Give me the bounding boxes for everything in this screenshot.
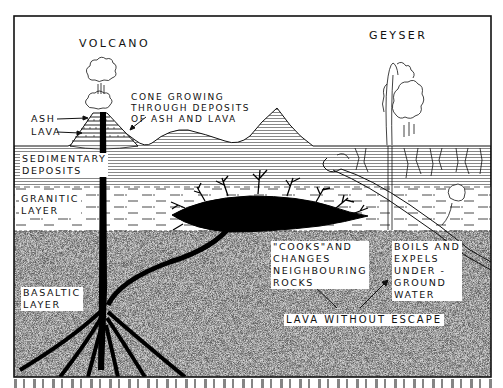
lava-without-escape-label: LAVA WITHOUT ESCAPE	[284, 314, 444, 326]
boils-annotation: BOILS AND EXPELS UNDER - GROUND WATER	[392, 241, 462, 301]
cooks-annotation: "COOKS"AND CHANGES NEIGHBOURING ROCKS	[271, 241, 369, 289]
lava-label: LAVA	[31, 126, 61, 138]
volcano-title: VOLCANO	[79, 38, 150, 50]
granitic-label: GRANITIC LAYER	[19, 193, 81, 217]
cone-label: CONE GROWING THROUGH DEPOSITS OF ASH AND…	[131, 92, 250, 125]
sedimentary-label: SEDIMENTARY DEPOSITS	[20, 153, 108, 177]
cut-off-caption-text	[14, 379, 492, 388]
geyser-title: GEYSER	[369, 30, 427, 42]
ash-label: ASH	[31, 113, 55, 125]
basaltic-label: BASALTIC LAYER	[21, 287, 83, 311]
